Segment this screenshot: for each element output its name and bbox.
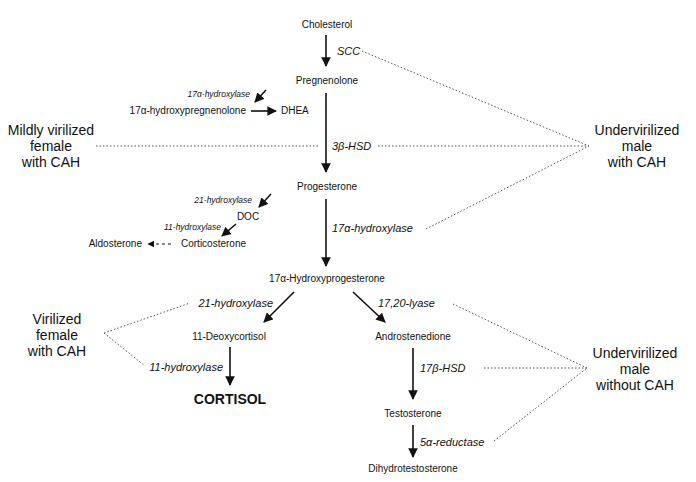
enzyme-11-hydroxylase-small: 11-hydroxylase	[164, 222, 221, 232]
arrow-pregnenolone-17oh-pregnenolone	[255, 90, 266, 102]
enzyme-17b-hsd: 17β-HSD	[420, 362, 465, 374]
connector-5a-reductase-undervirilized-no-cah	[494, 368, 587, 441]
node-dihydrotestosterone: Dihydrotestosterone	[368, 463, 458, 474]
phenotype-line: with CAH	[607, 154, 666, 170]
phenotype-line: Virilized	[33, 311, 82, 327]
node-progesterone: Progesterone	[297, 181, 357, 192]
phenotype-line: female	[30, 138, 72, 154]
enzyme-17a-hydroxylase-small: 17α-hydroxylase	[188, 89, 251, 99]
node-cortisol: CORTISOL	[194, 391, 267, 407]
steroidogenesis-pathway-diagram: Cholesterol Pregnenolone 17α-hydroxypreg…	[0, 0, 696, 482]
phenotype-line: without CAH	[595, 377, 674, 393]
phenotype-line: Undervirilized	[593, 345, 678, 361]
enzyme-scc: SCC	[337, 45, 360, 57]
phenotype-line: with CAH	[21, 154, 80, 170]
enzyme-5a-reductase: 5α-reductase	[420, 436, 484, 448]
enzyme-21-hydroxylase: 21-hydroxylase	[197, 297, 273, 309]
node-dhea: DHEA	[281, 105, 309, 116]
node-17a-hydroxypregnenolone: 17α-hydroxypregnenolone	[130, 105, 247, 116]
node-aldosterone: Aldosterone	[89, 238, 143, 249]
connector-scc-undervirilized-cah	[362, 51, 589, 146]
node-testosterone: Testosterone	[384, 408, 442, 419]
arrow-doc-corticosterone	[222, 224, 236, 236]
phenotype-line: Undervirilized	[595, 122, 680, 138]
arrow-progesterone-doc	[259, 194, 271, 207]
phenotype-undervirilized-male-without-cah: Undervirilized male without CAH	[593, 345, 678, 393]
enzyme-17a-hydroxylase: 17α-hydroxylase	[332, 222, 413, 234]
phenotype-line: with CAH	[27, 343, 86, 359]
phenotype-mildly-virilized-female: Mildly virilized female with CAH	[8, 122, 94, 170]
connector-virilized-21-hydroxylase	[104, 303, 190, 333]
connector-17-20-lyase-undervirilized-no-cah	[453, 304, 587, 368]
node-pregnenolone: Pregnenolone	[296, 75, 359, 86]
enzyme-21-hydroxylase-small: 21-hydroxylase	[193, 195, 252, 205]
phenotype-line: Mildly virilized	[8, 122, 94, 138]
node-11-deoxycortisol: 11-Deoxycortisol	[192, 331, 266, 342]
phenotype-line: male	[622, 138, 653, 154]
phenotype-line: male	[620, 361, 651, 377]
phenotype-undervirilized-male-with-cah: Undervirilized male with CAH	[595, 122, 680, 170]
node-17a-hydroxyprogesterone: 17α-Hydroxyprogesterone	[269, 273, 385, 284]
node-androstenedione: Androstenedione	[375, 331, 451, 342]
enzyme-11-hydroxylase: 11-hydroxylase	[149, 361, 223, 373]
phenotype-line: female	[36, 327, 78, 343]
connector-17a-hydroxylase-undervirilized-cah	[426, 146, 589, 229]
node-cholesterol: Cholesterol	[302, 19, 353, 30]
enzyme-17-20-lyase: 17,20-lyase	[378, 297, 435, 309]
enzyme-3b-hsd: 3β-HSD	[332, 140, 371, 152]
node-doc: DOC	[237, 211, 259, 222]
phenotype-virilized-female: Virilized female with CAH	[27, 311, 86, 359]
node-corticosterone: Corticosterone	[181, 238, 246, 249]
connector-virilized-11-hydroxylase	[104, 333, 145, 366]
